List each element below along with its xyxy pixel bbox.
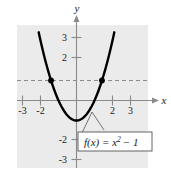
x-axis-arrow-icon <box>152 98 159 104</box>
function-label-text: f(x) = x2− 1 <box>84 135 139 150</box>
parabola-plot: -3 -2 2 3 3 2 -2 -3 x y f(x) = x2− 1 <box>0 0 171 177</box>
x-tick-label-2: 2 <box>110 105 115 116</box>
x-tick-label--2: -2 <box>36 105 44 116</box>
intersection-point-right <box>99 78 105 84</box>
y-tick-label--2: -2 <box>59 134 67 145</box>
function-label-tail: − 1 <box>123 136 139 148</box>
y-axis-arrow-icon <box>74 15 80 22</box>
x-tick-label--3: -3 <box>18 105 26 116</box>
y-tick-label--3: -3 <box>59 154 67 165</box>
y-axis-label: y <box>74 2 80 14</box>
y-tick-label-2: 2 <box>62 52 67 63</box>
math-figure: -3 -2 2 3 3 2 -2 -3 x y f(x) = x2− 1 <box>0 0 171 177</box>
y-tick-label-3: 3 <box>62 32 67 43</box>
x-tick-label-3: 3 <box>128 105 133 116</box>
function-label-exponent: 2 <box>117 135 121 144</box>
x-axis-label: x <box>161 94 167 106</box>
intersection-point-left <box>48 78 54 84</box>
function-label-main: f(x) = x <box>84 136 117 149</box>
